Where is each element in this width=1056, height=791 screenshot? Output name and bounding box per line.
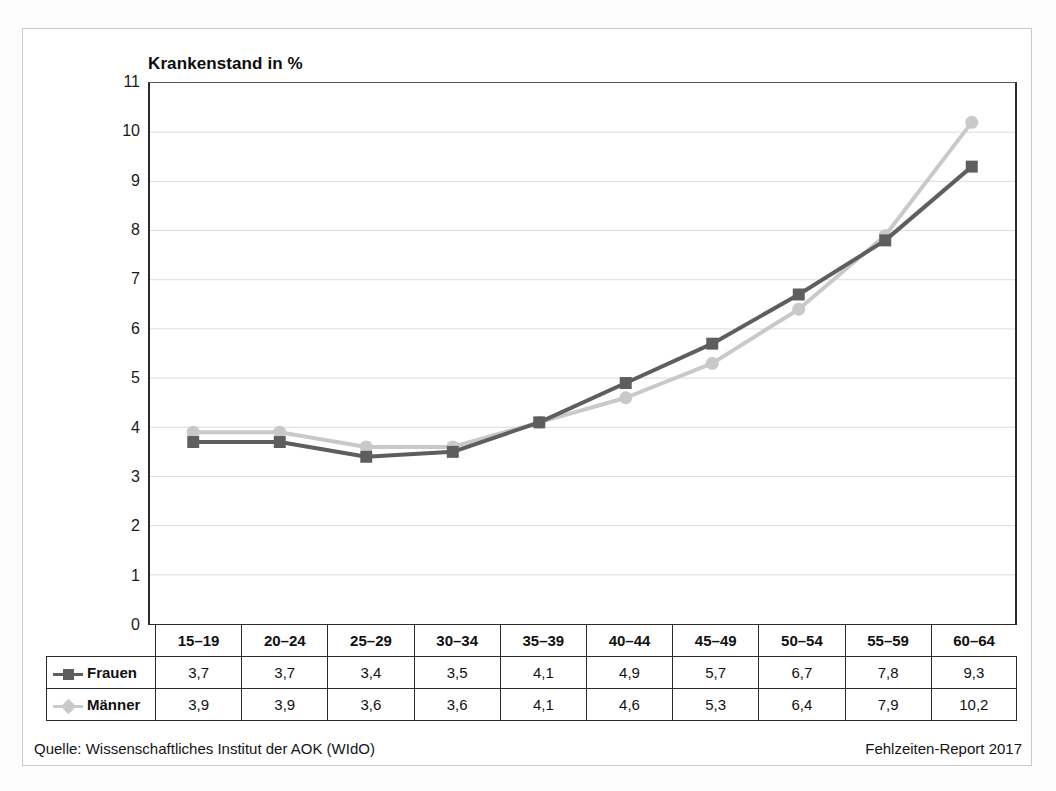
y-tick-label: 7 (106, 270, 140, 288)
report-note: Fehlzeiten-Report 2017 (865, 740, 1022, 757)
chart-title: Krankenstand in % (148, 54, 303, 74)
table-cell: 6,4 (759, 689, 845, 721)
series-line-frauen (193, 167, 972, 457)
table-cell: 4,1 (500, 657, 586, 689)
series-lines (150, 83, 1015, 624)
table-column-header: 15–19 (156, 625, 242, 657)
table-row: Männer3,93,93,63,64,14,65,36,47,910,2 (47, 689, 1017, 721)
y-tick-label: 8 (106, 221, 140, 239)
legend-dot (63, 669, 74, 680)
data-point-frauen (793, 289, 805, 301)
table-cell: 3,9 (242, 689, 328, 721)
table-cell: 7,8 (845, 657, 931, 689)
data-point-männer (619, 391, 632, 404)
legend-label: Männer (87, 696, 140, 713)
table-cell: 3,6 (328, 689, 414, 721)
footer: Quelle: Wissenschaftliches Institut der … (34, 740, 1022, 757)
table-row: Frauen3,73,73,43,54,14,95,76,77,89,3 (47, 657, 1017, 689)
data-table: 15–1920–2425–2930–3435–3940–4445–4950–54… (46, 625, 1017, 721)
table-cell: 3,7 (242, 657, 328, 689)
data-point-frauen (706, 338, 718, 350)
table-cell: 6,7 (759, 657, 845, 689)
table-cell: 3,4 (328, 657, 414, 689)
table-column-header: 20–24 (242, 625, 328, 657)
data-point-frauen (447, 446, 459, 458)
data-point-frauen (966, 161, 978, 173)
table-header: 15–1920–2425–2930–3435–3940–4445–4950–54… (47, 625, 1017, 657)
y-tick-label: 6 (106, 320, 140, 338)
table-column-header: 25–29 (328, 625, 414, 657)
y-tick-label: 4 (106, 419, 140, 437)
data-point-männer (792, 303, 805, 316)
table-cell: 4,9 (586, 657, 672, 689)
table-column-header: 60–64 (931, 625, 1016, 657)
data-point-frauen (274, 436, 286, 448)
table-column-header: 35–39 (500, 625, 586, 657)
table-body: Frauen3,73,73,43,54,14,95,76,77,89,3Männ… (47, 657, 1017, 721)
data-point-frauen (360, 451, 372, 463)
figure: Krankenstand in % 01234567891011 15–1920… (0, 0, 1056, 791)
legend-marker-icon (53, 668, 83, 680)
data-point-frauen (533, 416, 545, 428)
y-tick-label: 10 (106, 122, 140, 140)
table-cell: 3,7 (156, 657, 242, 689)
data-point-frauen (187, 436, 199, 448)
legend-label: Frauen (87, 664, 137, 681)
series-line-männer (193, 122, 972, 447)
legend-marker-icon (53, 700, 83, 712)
data-point-frauen (620, 377, 632, 389)
table-corner-cell (47, 625, 156, 657)
table-cell: 5,7 (673, 657, 759, 689)
y-tick-label: 1 (106, 567, 140, 585)
table-cell: 3,5 (414, 657, 500, 689)
y-tick-label: 9 (106, 172, 140, 190)
table-cell: 3,6 (414, 689, 500, 721)
table-column-header: 40–44 (586, 625, 672, 657)
table-cell: 4,6 (586, 689, 672, 721)
table-cell: 5,3 (673, 689, 759, 721)
data-point-männer (706, 357, 719, 370)
legend-dot (61, 699, 77, 715)
y-tick-label: 3 (106, 468, 140, 486)
table-column-header: 50–54 (759, 625, 845, 657)
table-column-header: 55–59 (845, 625, 931, 657)
table-cell: 10,2 (931, 689, 1016, 721)
legend-cell-frauen: Frauen (47, 657, 156, 689)
y-tick-label: 11 (106, 73, 140, 91)
y-tick-label: 5 (106, 369, 140, 387)
y-tick-label: 2 (106, 517, 140, 535)
data-point-männer (965, 116, 978, 129)
plot-area (148, 82, 1017, 625)
table-cell: 7,9 (845, 689, 931, 721)
table-cell: 4,1 (500, 689, 586, 721)
table-cell: 3,9 (156, 689, 242, 721)
source-note: Quelle: Wissenschaftliches Institut der … (34, 740, 375, 757)
data-point-frauen (879, 234, 891, 246)
table-header-row: 15–1920–2425–2930–3435–3940–4445–4950–54… (47, 625, 1017, 657)
table-cell: 9,3 (931, 657, 1016, 689)
legend-cell-männer: Männer (47, 689, 156, 721)
table-column-header: 30–34 (414, 625, 500, 657)
table-column-header: 45–49 (673, 625, 759, 657)
